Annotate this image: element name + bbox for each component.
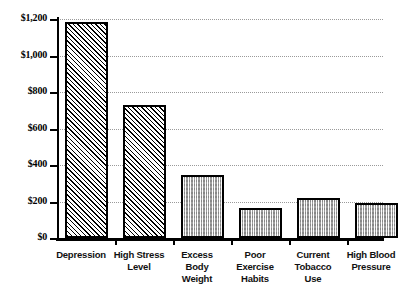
y-tick-label-400: $400 xyxy=(0,158,47,169)
y-tick-label-1000: $1,000 xyxy=(0,49,47,60)
x-tick-mark-3 xyxy=(231,238,233,245)
x-tick-mark-2 xyxy=(173,238,175,245)
y-tick-label-600: $600 xyxy=(0,122,47,133)
y-tick-mark-600 xyxy=(50,129,57,131)
bar-high-stress-level xyxy=(123,105,166,238)
bar-chart: $1,200 $1,000 $800 $600 $400 $200 $0 xyxy=(0,0,399,307)
x-tick-mark-5 xyxy=(347,238,349,245)
x-axis-line xyxy=(56,238,384,241)
y-tick-mark-1200 xyxy=(50,19,57,21)
label-line: Use xyxy=(276,273,350,285)
bar-high-blood-pressure xyxy=(355,203,398,238)
plot-area xyxy=(57,19,383,238)
y-axis-line xyxy=(57,17,59,240)
bar-depression xyxy=(65,22,108,238)
y-tick-label-200: $200 xyxy=(0,195,47,206)
bar-current-tobacco-use xyxy=(297,198,340,238)
y-tick-label-1200: $1,200 xyxy=(0,12,47,23)
x-tick-mark-1 xyxy=(115,238,117,245)
x-tick-mark-4 xyxy=(289,238,291,245)
y-tick-label-0: $0 xyxy=(0,231,47,242)
y-tick-mark-400 xyxy=(50,165,57,167)
y-tick-mark-200 xyxy=(50,202,57,204)
bar-poor-exercise-habits xyxy=(239,208,282,238)
y-tick-label-800: $800 xyxy=(0,85,47,96)
y-tick-mark-1000 xyxy=(50,56,57,58)
x-category-label-high-blood-pressure: High Blood Pressure xyxy=(334,249,399,273)
label-line: Pressure xyxy=(334,261,399,273)
bar-excess-body-weight xyxy=(181,175,224,238)
y-tick-mark-800 xyxy=(50,92,57,94)
label-line: High Blood xyxy=(334,249,399,261)
